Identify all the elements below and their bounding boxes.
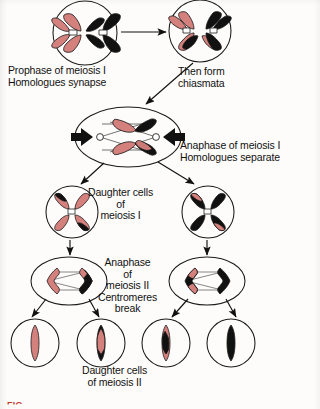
label-chiasmata: Then form chiasmata (178, 66, 225, 89)
label-daughter-cells-i: Daughter cells of meiosis I (88, 187, 153, 222)
arrow-anaphase-i-to-daughter-right (158, 162, 194, 184)
chromosome-daughter-i-left (55, 193, 90, 230)
cell-anaphase-ii-right-outline (169, 257, 245, 305)
label-anaphase-ii: Anaphase of meiosis II Centromeres break (98, 257, 157, 315)
arrow-anaphase-ii-right-to-gamete-4 (226, 299, 236, 317)
chromosomes-prophase-i (52, 14, 121, 53)
label-prophase-i: Prophase of meiosis I Homologues synapse (8, 65, 106, 88)
chromosomes-anaphase-i (71, 119, 185, 155)
chromosomes-anaphase-ii-right (185, 268, 230, 294)
chromosomes-chiasmata (169, 12, 232, 51)
chromosome-daughter-i-right (191, 193, 226, 230)
meiosis-diagram (0, 0, 320, 409)
cell-chiasmata-outline (169, 0, 231, 62)
chromosome-gamete-2 (97, 325, 105, 361)
arrow-anaphase-ii-right-to-gamete-3 (172, 299, 188, 317)
arrow-anaphase-ii-left-to-gamete-1 (32, 299, 46, 317)
label-anaphase-i: Anaphase of meiosis I Homologues separat… (180, 140, 280, 163)
arrow-anaphase-i-to-daughter-left (81, 163, 104, 184)
chromosomes-anaphase-ii-left (47, 268, 92, 294)
chromosome-gamete-4 (227, 325, 235, 361)
chromosome-gamete-3 (162, 325, 170, 361)
cell-anaphase-ii-left-outline (31, 257, 107, 305)
label-daughter-cells-ii: Daughter cells of meiosis II (82, 365, 147, 388)
chromosome-gamete-1 (31, 325, 39, 361)
